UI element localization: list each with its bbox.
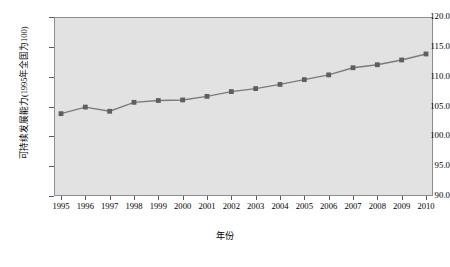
y-tick-mark bbox=[49, 196, 54, 197]
series-markers bbox=[59, 52, 429, 116]
data-point bbox=[83, 105, 88, 110]
data-point bbox=[326, 72, 331, 77]
x-tick-mark bbox=[304, 196, 305, 200]
data-point bbox=[375, 62, 380, 67]
x-tick-mark bbox=[85, 196, 86, 200]
series-polyline bbox=[61, 54, 426, 114]
x-tick-mark bbox=[183, 196, 184, 200]
x-tick-label: 2009 bbox=[382, 202, 422, 211]
line-series bbox=[54, 17, 433, 196]
x-tick-label: 2004 bbox=[260, 202, 300, 211]
x-axis-label: 年份 bbox=[0, 228, 450, 242]
x-tick-mark bbox=[280, 196, 281, 200]
x-tick-label: 2001 bbox=[187, 202, 227, 211]
x-tick-mark bbox=[207, 196, 208, 200]
x-tick-label: 1999 bbox=[138, 202, 178, 211]
data-point bbox=[156, 98, 161, 103]
data-point bbox=[399, 58, 404, 63]
x-tick-mark bbox=[426, 196, 427, 200]
x-tick-label: 2010 bbox=[406, 202, 446, 211]
data-point bbox=[278, 82, 283, 87]
x-tick-mark bbox=[402, 196, 403, 200]
data-point bbox=[205, 94, 210, 99]
data-point bbox=[59, 111, 64, 116]
data-point bbox=[180, 98, 185, 103]
x-tick-mark bbox=[329, 196, 330, 200]
x-tick-mark bbox=[377, 196, 378, 200]
x-tick-mark bbox=[256, 196, 257, 200]
x-tick-mark bbox=[353, 196, 354, 200]
x-tick-mark bbox=[61, 196, 62, 200]
data-point bbox=[107, 109, 112, 114]
x-tick-mark bbox=[231, 196, 232, 200]
chart-figure: 可持续发展能力(1995年全国为100) 90.095.0100.0105.01… bbox=[0, 0, 450, 267]
x-tick-mark bbox=[110, 196, 111, 200]
data-point bbox=[302, 77, 307, 82]
x-tick-label: 2000 bbox=[163, 202, 203, 211]
x-tick-label: 1998 bbox=[114, 202, 154, 211]
data-point bbox=[253, 86, 258, 91]
data-point bbox=[351, 65, 356, 70]
data-point bbox=[132, 100, 137, 105]
x-tick-label: 2006 bbox=[309, 202, 349, 211]
x-tick-label: 2003 bbox=[236, 202, 276, 211]
x-tick-label: 2002 bbox=[211, 202, 251, 211]
data-point bbox=[424, 52, 429, 57]
x-tick-label: 2005 bbox=[284, 202, 324, 211]
x-tick-label: 2007 bbox=[333, 202, 373, 211]
x-tick-label: 1995 bbox=[41, 202, 81, 211]
x-tick-mark bbox=[158, 196, 159, 200]
x-tick-label: 1996 bbox=[65, 202, 105, 211]
data-point bbox=[229, 89, 234, 94]
x-tick-mark bbox=[134, 196, 135, 200]
x-tick-label: 1997 bbox=[90, 202, 130, 211]
x-tick-label: 2008 bbox=[357, 202, 397, 211]
y-axis-label: 可持续发展能力(1995年全国为100) bbox=[17, 0, 29, 193]
